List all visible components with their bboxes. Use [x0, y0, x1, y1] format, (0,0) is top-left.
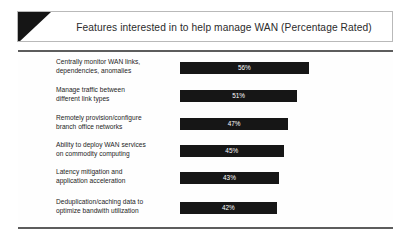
chart-row: Ability to deploy WAN serviceson commodi… — [18, 141, 393, 165]
bar-value-label: 43% — [216, 172, 242, 184]
chart-row: Manage traffic betweendifferent link typ… — [18, 86, 393, 110]
bar-category-label-line: Latency mitigation and — [56, 168, 180, 177]
bar-value-label: 45% — [219, 145, 245, 157]
divider-bottom — [18, 227, 393, 229]
bar-track: 42% — [180, 202, 393, 214]
bar-category-label-line: on commodity computing — [56, 150, 180, 159]
bar-value-label: 51% — [226, 90, 252, 102]
chart-header-banner: Features interested in to help manage WA… — [17, 11, 393, 42]
bar-category-label: Deduplication/caching data tooptimize ba… — [56, 198, 180, 215]
bar-category-label-line: Manage traffic between — [56, 86, 180, 95]
bar-track: 43% — [180, 172, 393, 184]
bar-track: 45% — [180, 145, 393, 157]
bar-category-label: Centrally monitor WAN links,dependencies… — [56, 58, 180, 75]
chart-row: Latency mitigation andapplication accele… — [18, 168, 393, 192]
bar-category-label: Remotely provision/configurebranch offic… — [56, 114, 180, 131]
bar-category-label: Latency mitigation andapplication accele… — [56, 168, 180, 185]
chart-row: Centrally monitor WAN links,dependencies… — [18, 58, 393, 82]
bar-category-label-line: application acceleration — [56, 177, 180, 186]
bar-category-label-line: different link types — [56, 95, 180, 104]
bar-category-label-line: Ability to deploy WAN services — [56, 141, 180, 150]
bar-track: 47% — [180, 118, 393, 130]
bar-category-label-line: dependencies, anomalies — [56, 67, 180, 76]
bar-category-label-line: optimize bandwith utilization — [56, 207, 180, 216]
chart-title: Features interested in to help manage WA… — [62, 12, 386, 42]
chart-row: Remotely provision/configurebranch offic… — [18, 114, 393, 138]
header-triangle-decoration — [18, 12, 51, 42]
bar-category-label: Manage traffic betweendifferent link typ… — [56, 86, 180, 103]
bar-category-label-line: Centrally monitor WAN links, — [56, 58, 180, 67]
bar-category-label: Ability to deploy WAN serviceson commodi… — [56, 141, 180, 158]
chart-row: Deduplication/caching data tooptimize ba… — [18, 198, 393, 222]
bar-value-label: 47% — [221, 118, 247, 130]
bar-track: 56% — [180, 62, 393, 74]
bar-chart-plot-area: Centrally monitor WAN links,dependencies… — [18, 56, 393, 224]
bar-category-label-line: Remotely provision/configure — [56, 114, 180, 123]
bar-value-label: 56% — [231, 62, 257, 74]
divider-top — [18, 50, 393, 52]
bar-category-label-line: Deduplication/caching data to — [56, 198, 180, 207]
bar-track: 51% — [180, 90, 393, 102]
bar-value-label: 42% — [215, 202, 241, 214]
bar-category-label-line: branch office networks — [56, 123, 180, 132]
